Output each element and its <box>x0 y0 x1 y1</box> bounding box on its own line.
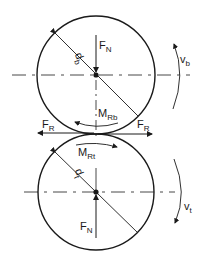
bottom-normal-force-label: FN <box>80 220 93 235</box>
bottom-velocity-label: vt <box>184 200 193 215</box>
top-normal-force-label: FN <box>99 39 112 54</box>
friction-force-left-label: FR <box>42 118 55 133</box>
bottom-roller: dt FN MRt vt <box>24 134 193 250</box>
roller-contact-diagram: FN db MRb vb FR FR dt FN MRt vt <box>0 0 202 263</box>
top-moment-arc-arrow <box>75 122 118 126</box>
top-velocity-label: vb <box>180 53 191 68</box>
top-velocity-arc-arrow <box>173 44 180 109</box>
top-moment-label: MRb <box>98 107 118 122</box>
top-roller-center <box>93 72 98 77</box>
top-roller: FN db MRb vb <box>12 16 191 140</box>
bottom-velocity-arc-arrow <box>174 159 181 223</box>
bottom-moment-label: MRt <box>78 146 96 161</box>
top-diameter-label: db <box>70 51 88 67</box>
friction-force-right-label: FR <box>137 118 150 133</box>
